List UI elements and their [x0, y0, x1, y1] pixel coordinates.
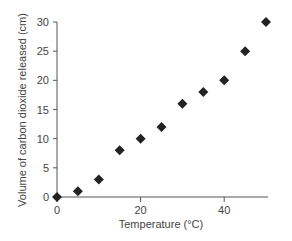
y-tick-label: 10 [37, 133, 49, 145]
data-point-diamond [73, 186, 83, 196]
data-point-diamond [240, 46, 250, 56]
data-point-diamond [157, 122, 167, 132]
axes: 05101520253002040 [37, 16, 268, 216]
y-tick-label: 5 [43, 162, 49, 174]
data-point-diamond [115, 145, 125, 155]
data-point-diamond [198, 87, 208, 97]
y-axis-title: Volume of carbon dioxide released (cm) [16, 13, 28, 207]
x-tick-label: 0 [54, 204, 60, 216]
x-tick-label: 20 [134, 204, 146, 216]
data-point-diamond [177, 99, 187, 109]
x-axis-title: Temperature (°C) [119, 218, 203, 230]
data-point-diamond [94, 175, 104, 185]
data-point-diamond [136, 134, 146, 144]
data-point-diamond [261, 17, 271, 27]
y-tick-label: 25 [37, 45, 49, 57]
data-point-diamond [219, 75, 229, 85]
x-tick-label: 40 [218, 204, 230, 216]
y-tick-label: 30 [37, 16, 49, 28]
data-point-diamond [52, 192, 62, 202]
scatter-chart: 05101520253002040 Temperature (°C) Volum… [0, 0, 292, 241]
y-tick-label: 0 [43, 191, 49, 203]
y-tick-label: 15 [37, 104, 49, 116]
y-tick-label: 20 [37, 74, 49, 86]
data-points [52, 17, 271, 202]
